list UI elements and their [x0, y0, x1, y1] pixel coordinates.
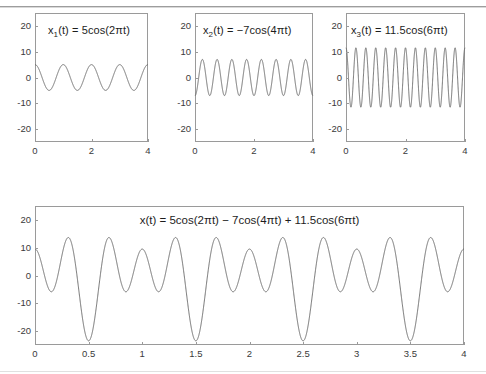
title-rest-x1: (t) = 5cos(2πt) — [58, 24, 130, 36]
y-tick-label: -10 — [320, 98, 342, 108]
x-tick-mark — [465, 139, 466, 142]
y-tick-mark — [35, 303, 38, 304]
y-tick-mark — [346, 129, 349, 130]
y-tick-mark — [35, 103, 38, 104]
y-tick-label: 0 — [9, 73, 31, 83]
x-tick-label: 2.5 — [291, 349, 315, 359]
x-tick-mark — [406, 139, 407, 142]
x-tick-label: 2 — [394, 146, 418, 156]
x-tick-label: 1.5 — [184, 349, 208, 359]
x-tick-label: 3.5 — [398, 349, 422, 359]
y-tick-mark — [195, 26, 198, 27]
figure-canvas: x1(t) = 5cos(2πt) x2(t) = −7cos(4πt) x3(… — [0, 0, 486, 374]
x-tick-mark — [250, 342, 251, 345]
scan-artifact-line-secondary — [0, 7, 486, 8]
y-tick-mark — [346, 78, 349, 79]
y-tick-label: -20 — [169, 124, 191, 134]
x-tick-label: 4 — [453, 146, 477, 156]
y-tick-label: 10 — [9, 47, 31, 57]
plot-title-x-sum: x(t) = 5cos(2πt) − 7cos(4πt) + 11.5cos(6… — [35, 214, 464, 226]
x-tick-mark — [303, 342, 304, 345]
x-tick-label: 0 — [334, 146, 358, 156]
y-tick-mark — [35, 78, 38, 79]
x-tick-mark — [148, 139, 149, 142]
y-tick-mark — [346, 52, 349, 53]
y-tick-label: 10 — [169, 47, 191, 57]
y-tick-label: 20 — [320, 21, 342, 31]
subplot-title-x1: x1(t) = 5cos(2πt) — [48, 24, 130, 39]
y-tick-label: -20 — [9, 124, 31, 134]
y-tick-mark — [35, 129, 38, 130]
y-tick-mark — [35, 248, 38, 249]
x-tick-mark — [196, 342, 197, 345]
subplot-title-x3: x3(t) = 11.5cos(6πt) — [351, 24, 448, 39]
title-rest-x3: (t) = 11.5cos(6πt) — [361, 24, 448, 36]
x-tick-label: 0 — [23, 349, 47, 359]
y-tick-mark — [195, 129, 198, 130]
x-tick-mark — [410, 342, 411, 345]
x-tick-mark — [35, 342, 36, 345]
x-tick-label: 0 — [23, 146, 47, 156]
x-tick-mark — [313, 139, 314, 142]
y-tick-label: 10 — [9, 243, 31, 253]
y-tick-label: 0 — [9, 271, 31, 281]
y-tick-mark — [35, 276, 38, 277]
y-tick-label: -10 — [9, 98, 31, 108]
y-tick-label: -20 — [9, 326, 31, 336]
y-tick-mark — [35, 220, 38, 221]
y-tick-label: 0 — [169, 73, 191, 83]
title-rest-x2: (t) = −7cos(4πt) — [213, 24, 291, 36]
y-tick-label: 20 — [9, 21, 31, 31]
y-tick-label: 0 — [320, 73, 342, 83]
x-tick-mark — [92, 139, 93, 142]
x-tick-mark — [142, 342, 143, 345]
x-tick-mark — [254, 139, 255, 142]
subplot-title-x2: x2(t) = −7cos(4πt) — [203, 24, 291, 39]
y-tick-label: -10 — [9, 298, 31, 308]
waveform-x-sum — [35, 206, 464, 345]
x-tick-mark — [346, 139, 347, 142]
x-tick-mark — [89, 342, 90, 345]
y-tick-label: 20 — [169, 21, 191, 31]
x-tick-label: 4 — [136, 146, 160, 156]
x-tick-label: 2 — [238, 349, 262, 359]
y-tick-label: 20 — [9, 215, 31, 225]
x-tick-mark — [195, 139, 196, 142]
x-tick-label: 1 — [130, 349, 154, 359]
x-tick-mark — [357, 342, 358, 345]
x-tick-label: 4 — [452, 349, 476, 359]
x-tick-mark — [35, 139, 36, 142]
y-tick-label: -20 — [320, 124, 342, 134]
y-tick-mark — [35, 331, 38, 332]
y-tick-mark — [195, 103, 198, 104]
y-tick-mark — [35, 26, 38, 27]
subplot-x-sum — [35, 206, 464, 345]
x-tick-label: 0.5 — [77, 349, 101, 359]
y-tick-label: -10 — [169, 98, 191, 108]
x-tick-label: 4 — [301, 146, 325, 156]
y-tick-mark — [346, 103, 349, 104]
x-tick-label: 0 — [183, 146, 207, 156]
y-tick-mark — [195, 52, 198, 53]
y-tick-mark — [195, 78, 198, 79]
x-tick-label: 3 — [345, 349, 369, 359]
y-tick-mark — [35, 52, 38, 53]
x-tick-label: 2 — [242, 146, 266, 156]
x-tick-label: 2 — [80, 146, 104, 156]
y-tick-label: 10 — [320, 47, 342, 57]
x-tick-mark — [464, 342, 465, 345]
y-tick-mark — [346, 26, 349, 27]
scan-artifact-line-bottom — [0, 371, 486, 372]
